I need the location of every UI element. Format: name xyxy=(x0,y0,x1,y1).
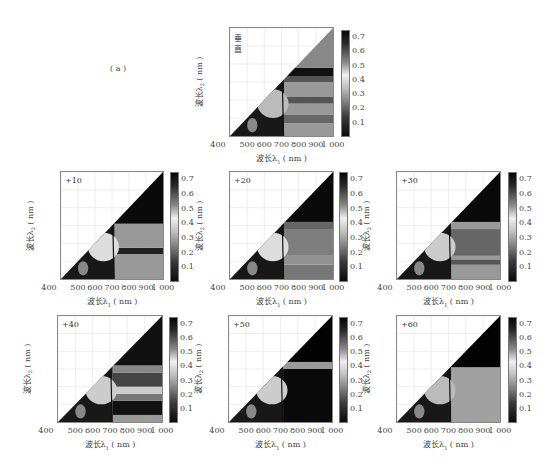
colorbar-tick-label: 0.2 xyxy=(519,249,532,257)
x-tick-label: 400 xyxy=(377,284,392,292)
colorbar xyxy=(508,317,517,423)
x-tick-label: 600 xyxy=(257,141,272,149)
colorbar xyxy=(339,172,348,282)
panel-title: 垂直 xyxy=(234,32,242,54)
heatmap-canvas xyxy=(397,172,500,279)
panel-title: +20 xyxy=(234,176,251,185)
panel-title: +30 xyxy=(401,176,418,185)
x-tick-label: 400 xyxy=(210,141,225,149)
panel-title: +60 xyxy=(401,320,418,329)
y-axis-label: 波长λ2 ( nm ) xyxy=(360,200,373,251)
colorbar-tick-label: 0.1 xyxy=(519,405,532,413)
y-axis-label: 波长λ2 ( nm ) xyxy=(24,200,37,251)
panel-title: +50 xyxy=(233,320,250,329)
heatmap-canvas xyxy=(61,172,163,279)
colorbar-tick-label: 0.3 xyxy=(352,90,365,98)
colorbar-tick-label: 0.6 xyxy=(519,190,532,198)
x-tick-label: 1 000 xyxy=(152,284,175,292)
x-tick-label: 500 xyxy=(240,284,255,292)
x-tick-label: 500 xyxy=(68,427,83,435)
x-tick-label: 700 xyxy=(441,427,456,435)
colorbar-tick-label: 0.5 xyxy=(519,205,532,213)
colorbar xyxy=(341,30,350,137)
x-tick-label: 800 xyxy=(291,141,306,149)
figure-label: ( a ) xyxy=(110,64,126,73)
x-tick-label: 1 000 xyxy=(321,427,344,435)
x-tick-label: 800 xyxy=(121,284,136,292)
x-axis-label: 波长λ1 ( nm ) xyxy=(423,295,474,308)
x-tick-label: 700 xyxy=(102,427,117,435)
heatmap-canvas xyxy=(229,316,332,422)
x-tick-label: 700 xyxy=(274,284,289,292)
colorbar-tick-label: 0.3 xyxy=(519,377,532,385)
x-tick-label: 700 xyxy=(441,284,456,292)
x-tick-label: 400 xyxy=(210,284,225,292)
colorbar-tick-label: 0.7 xyxy=(352,33,365,41)
x-tick-label: 1 000 xyxy=(322,284,345,292)
colorbar-tick-label: 0.5 xyxy=(352,62,365,70)
x-tick-label: 1 000 xyxy=(151,427,174,435)
colorbar-tick-label: 0.7 xyxy=(180,320,193,328)
colorbar-tick-label: 0.6 xyxy=(181,190,194,198)
x-tick-label: 700 xyxy=(274,141,289,149)
colorbar-tick-label: 0.4 xyxy=(352,76,365,84)
y-axis-label: 波长λ2 ( nm ) xyxy=(360,344,373,395)
colorbar xyxy=(169,317,178,423)
x-tick-label: 1 000 xyxy=(489,284,512,292)
colorbar-tick-label: 0.6 xyxy=(350,334,363,342)
panel-title: +40 xyxy=(62,320,79,329)
y-axis-label: 波长λ2 ( nm ) xyxy=(193,57,206,108)
x-axis-label: 波长λ1 ( nm ) xyxy=(255,438,306,451)
x-tick-label: 500 xyxy=(70,284,85,292)
x-tick-label: 800 xyxy=(291,284,306,292)
x-tick-label: 600 xyxy=(256,427,271,435)
colorbar-tick-label: 0.6 xyxy=(519,334,532,342)
colorbar-tick-label: 0.1 xyxy=(181,263,194,271)
colorbar-tick-label: 0.1 xyxy=(350,405,363,413)
x-tick-label: 800 xyxy=(290,427,305,435)
y-axis-label: 波长λ2 ( nm ) xyxy=(21,344,34,395)
x-tick-label: 800 xyxy=(458,284,473,292)
x-tick-label: 800 xyxy=(120,427,135,435)
x-tick-label: 400 xyxy=(377,427,392,435)
heatmap-plot xyxy=(396,315,501,423)
x-tick-label: 400 xyxy=(41,284,56,292)
heatmap-canvas xyxy=(230,172,333,279)
heatmap-canvas xyxy=(397,316,500,422)
x-tick-label: 1 000 xyxy=(489,427,512,435)
colorbar-tick-label: 0.6 xyxy=(350,190,363,198)
x-axis-label: 波长λ1 ( nm ) xyxy=(423,438,474,451)
colorbar-tick-label: 0.6 xyxy=(352,47,365,55)
colorbar-tick-label: 0.7 xyxy=(181,175,194,183)
colorbar-tick-label: 0.4 xyxy=(519,219,532,227)
colorbar-tick-label: 0.2 xyxy=(352,104,365,112)
x-tick-label: 600 xyxy=(424,284,439,292)
colorbar-tick-label: 0.1 xyxy=(350,263,363,271)
panel-title: +10 xyxy=(65,176,82,185)
colorbar-tick-label: 0.4 xyxy=(519,362,532,370)
heatmap-plot xyxy=(229,27,334,137)
x-tick-label: 600 xyxy=(87,284,102,292)
x-tick-label: 500 xyxy=(407,427,422,435)
colorbar-tick-label: 0.2 xyxy=(519,391,532,399)
y-axis-label: 波长λ2 ( nm ) xyxy=(193,200,206,251)
x-tick-label: 500 xyxy=(239,427,254,435)
x-tick-label: 600 xyxy=(257,284,272,292)
x-axis-label: 波长λ1 ( nm ) xyxy=(87,295,138,308)
colorbar xyxy=(508,172,517,282)
colorbar-tick-label: 0.5 xyxy=(519,348,532,356)
x-axis-label: 波长λ1 ( nm ) xyxy=(256,295,307,308)
x-tick-label: 700 xyxy=(104,284,119,292)
colorbar-tick-label: 0.6 xyxy=(180,334,193,342)
colorbar-tick-label: 0.7 xyxy=(350,320,363,328)
heatmap-plot xyxy=(228,315,333,423)
colorbar-tick-label: 0.3 xyxy=(519,234,532,242)
colorbar xyxy=(339,317,348,423)
x-axis-label: 波长λ1 ( nm ) xyxy=(85,438,136,451)
colorbar-tick-label: 0.1 xyxy=(180,405,193,413)
x-tick-label: 400 xyxy=(209,427,224,435)
x-tick-label: 500 xyxy=(240,141,255,149)
colorbar-tick-label: 0.1 xyxy=(519,263,532,271)
heatmap-plot xyxy=(396,171,501,280)
x-axis-label: 波长λ1 ( nm ) xyxy=(256,152,307,165)
